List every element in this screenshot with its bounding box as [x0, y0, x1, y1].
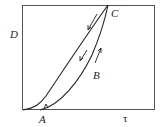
y-axis-label: D	[10, 29, 18, 40]
arrow-lower-up	[95, 48, 101, 63]
x-axis-label: τ	[123, 113, 127, 124]
hysteresis-curves	[0, 0, 163, 127]
arrow-mid-down	[80, 50, 87, 61]
point-b-label: B	[93, 70, 100, 81]
point-c-label: C	[111, 8, 118, 19]
lower-curve	[40, 5, 108, 110]
point-a-label: A	[39, 114, 46, 125]
